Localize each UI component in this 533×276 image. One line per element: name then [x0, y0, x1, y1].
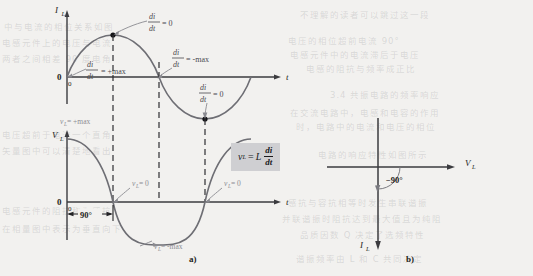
annotation-peak-denominator: dt [149, 24, 156, 33]
inductor-voltage-formula: v L = L di dt [231, 143, 280, 171]
voltage-time-axis-label: t [286, 197, 289, 207]
current-axis-label-subscript: L [61, 10, 66, 17]
panel-a-label: a) [189, 254, 197, 264]
annotation-trough-value: = 0 [213, 90, 224, 99]
voltage-x-axis-arrowhead [274, 200, 281, 205]
formula-inductance: L [256, 151, 262, 162]
annotation-rise-value: = +max [101, 67, 126, 76]
annotation-vl-zero-second-value: = 0 [231, 179, 241, 188]
annotation-di-dt-plus-max: di dt = +max [67, 60, 126, 81]
voltage-y-axis-arrowhead [65, 130, 70, 137]
annotation-di-dt-minus-max: di dt = -max [157, 48, 209, 79]
annotation-rise-denominator: dt [87, 72, 94, 81]
annotation-fall-denominator: dt [173, 60, 180, 69]
current-origin-label-small: 0 [68, 80, 72, 88]
phasor-voltage-arrowhead [447, 164, 455, 170]
annotation-rise-numerator: di [87, 60, 93, 69]
annotation-trough-denominator: dt [200, 95, 207, 104]
annotation-vl-minus-max-value: = -max [161, 242, 183, 251]
annotation-vl-zero-first-value: = 0 [139, 179, 149, 188]
annotation-peak-numerator: di [149, 12, 155, 21]
annotation-vl-minus-max: v L = -max [140, 241, 183, 252]
phasor-current-arrowhead [375, 241, 381, 250]
phasor-current-label: I [359, 240, 364, 250]
formula-numerator: di [264, 146, 273, 156]
annotation-fall-value: = -max [186, 55, 209, 64]
annotation-trough-numerator: di [200, 83, 206, 92]
current-y-axis-arrowhead [65, 10, 70, 17]
phasor-angle-label: −90° [386, 175, 403, 185]
voltage-origin-label-small: 0 [68, 205, 72, 213]
current-x-axis-arrowhead [274, 75, 281, 80]
chart-inductor-current: I L t 0 0 di dt = 0 di dt = +max [54, 5, 289, 202]
phasor-diagram: −90° V L I L [327, 118, 476, 252]
formula-denominator: dt [264, 156, 273, 167]
annotation-di-dt-zero-trough: di dt = 0 [199, 83, 224, 119]
annotation-di-dt-zero-peak: di dt = 0 [114, 12, 173, 35]
voltage-axis-label: V [52, 130, 59, 140]
phase-shift-label: 90° [80, 210, 92, 220]
phasor-voltage-label-subscript: L [471, 163, 476, 170]
current-axis-label: I [54, 5, 59, 15]
annotation-vl-plus-max-value: = +max [67, 117, 90, 126]
annotation-vl-zero-first: v L = 0 [113, 179, 150, 203]
annotation-fall-numerator: di [173, 48, 179, 57]
figure-page: 不理解的读者可以跳过这一段电压的相位超前电流 90°电感元件中的电流滞后于电压电… [0, 0, 533, 276]
formula-derivative: di dt [264, 146, 273, 167]
current-time-axis-label: t [286, 72, 289, 82]
formula-lhs-subscript: L [242, 153, 246, 160]
phasor-voltage-label: V [465, 158, 472, 168]
annotation-peak-value: = 0 [162, 19, 173, 28]
phasor-current-label-subscript: L [365, 245, 370, 252]
current-origin-label: 0 [57, 72, 62, 82]
phase-shift-dimension: 90° [67, 205, 113, 221]
voltage-origin-label: 0 [57, 197, 62, 207]
chart-inductor-voltage: V L t 0 0 v L = +max v L = 0 [52, 117, 289, 252]
figure-canvas: I L t 0 0 di dt = 0 di dt = +max [0, 0, 533, 276]
annotation-vl-plus-max: v L = +max [60, 117, 90, 127]
panel-b-label: b) [406, 254, 414, 264]
voltage-axis-label-subscript: L [59, 135, 64, 142]
formula-equals: = [248, 151, 254, 162]
